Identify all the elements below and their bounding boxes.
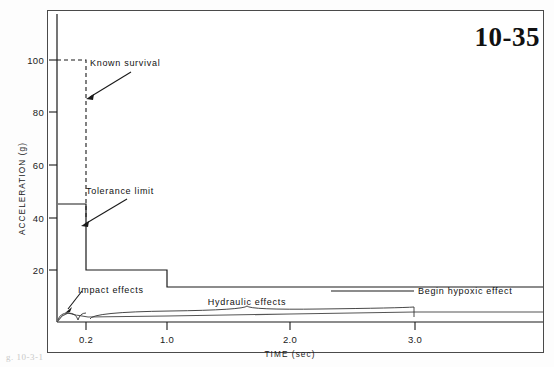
impact-effects-label: Impact effects — [78, 285, 144, 295]
x-axis-ticks — [86, 322, 415, 330]
series-hydraulic-trace — [58, 312, 543, 321]
known-survival-line — [57, 60, 86, 218]
y-tick-label-100: 100 — [27, 55, 44, 66]
y-tick-label-20: 20 — [33, 265, 44, 276]
y-axis-tick-labels: 100 80 60 40 20 — [27, 55, 44, 276]
x-axis-title: TIME (sec) — [264, 350, 315, 359]
x-tick-label-1-0: 1.0 — [160, 334, 174, 345]
annotation-impact-effects: Impact effects — [65, 285, 144, 313]
begin-hypoxic-effect-label: Begin hypoxic effect — [418, 286, 512, 296]
hydraulic-trace-line — [58, 312, 543, 321]
series-known-survival — [57, 60, 86, 218]
annotation-tolerance-limit: Tolerance limit — [81, 186, 154, 227]
figure-caption-fragment: g. 10-3-1 — [6, 352, 44, 362]
acceleration-vs-time-chart: 100 80 60 40 20 ACCELERATION (g) 0.2 1.0… — [0, 0, 554, 367]
y-tick-label-60: 60 — [33, 160, 44, 171]
x-tick-label-3-0: 3.0 — [408, 334, 422, 345]
x-tick-label-2-0: 2.0 — [283, 334, 297, 345]
known-survival-label: Known survival — [90, 58, 160, 68]
annotation-hydraulic-effects: Hydraulic effects — [208, 297, 286, 307]
tolerance-limit-leader-line — [85, 199, 127, 224]
known-survival-arrowhead — [86, 94, 94, 100]
annotation-known-survival: Known survival — [86, 58, 160, 100]
x-tick-label-0-2: 0.2 — [79, 334, 93, 345]
y-axis-title: ACCELERATION (g) — [18, 142, 27, 235]
tolerance-limit-label: Tolerance limit — [86, 186, 154, 196]
known-survival-leader-line — [90, 72, 131, 97]
scanned-page: 10-35 100 80 60 40 20 ACCELERATION (g) — [0, 0, 554, 367]
y-tick-label-40: 40 — [33, 213, 44, 224]
tolerance-limit-arrowhead — [81, 221, 89, 227]
y-axis-ticks — [49, 60, 57, 270]
x-axis-tick-labels: 0.2 1.0 2.0 3.0 — [79, 334, 422, 345]
y-tick-label-80: 80 — [33, 107, 44, 118]
tolerance-limit-step-line — [58, 204, 543, 287]
series-tolerance-limit — [58, 204, 543, 287]
hydraulic-effects-label: Hydraulic effects — [208, 297, 286, 307]
